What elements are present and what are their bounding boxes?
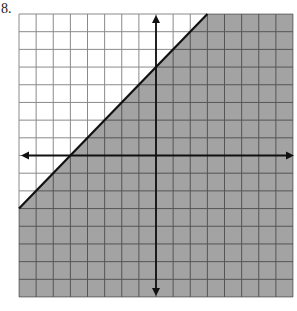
coordinate-graph (0, 0, 297, 311)
